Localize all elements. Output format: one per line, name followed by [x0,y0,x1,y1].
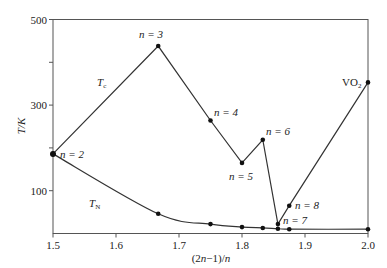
series-line-tc [53,46,368,224]
data-point [276,226,281,231]
data-point [260,226,265,231]
label-vo2: VO2 [342,76,362,90]
y-axis-label: T/K [15,117,27,134]
data-point [240,161,245,166]
x-tick-label: 1.8 [235,239,249,251]
x-axis-ticks: 1.51.61.71.81.92.0 [46,234,375,251]
y-tick-label: 100 [31,185,48,197]
x-axis-label: (2n−1)/n [192,252,231,265]
x-tick-label: 1.9 [298,239,312,251]
label-n5: n = 5 [229,170,253,182]
data-point [208,118,213,123]
chart: 100300500 1.51.61.71.81.92.0 T/K (2n−1)/… [0,0,387,268]
label-n4: n = 4 [214,106,238,118]
data-point [260,137,265,142]
plot-frame [53,20,368,234]
x-tick-label: 1.7 [172,239,186,251]
data-point [156,212,161,217]
data-point [276,222,281,227]
label-n8: n = 8 [295,199,319,211]
data-point [287,227,292,232]
tn-series-label: TN [89,197,100,211]
y-tick-label: 500 [31,14,48,26]
x-tick-label: 1.6 [109,239,123,251]
data-point [156,44,161,49]
label-n3: n = 3 [139,28,163,40]
data-point [51,152,56,157]
series-line-tn [53,154,368,229]
data-point [240,225,245,230]
data-point [366,80,371,85]
label-n2: n = 2 [60,148,84,160]
label-n7: n = 7 [283,214,307,226]
data-point [208,222,213,227]
series-lines [53,46,368,229]
y-tick-label: 300 [31,99,48,111]
data-point [287,203,292,208]
tc-series-label: Tc [97,76,106,90]
label-n6: n = 6 [266,125,290,137]
x-tick-label: 2.0 [361,239,375,251]
x-tick-label: 1.5 [46,239,60,251]
y-axis-ticks: 100300500 [31,14,54,197]
data-point [366,227,371,232]
